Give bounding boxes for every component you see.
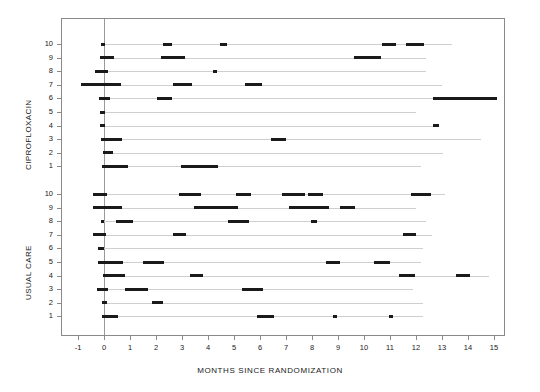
- x-axis-tick: [390, 336, 391, 340]
- episode-bar: [194, 206, 238, 209]
- x-axis-label: 2: [146, 343, 166, 352]
- episode-bar: [173, 233, 185, 236]
- followup-line: [104, 85, 442, 86]
- episode-bar: [411, 193, 431, 196]
- episode-bar: [374, 261, 390, 264]
- x-axis-tick: [416, 336, 417, 340]
- y-axis-tick: [57, 139, 61, 140]
- episode-bar: [93, 193, 107, 196]
- x-axis-tick: [182, 336, 183, 340]
- episode-bar: [190, 274, 203, 277]
- episode-bar: [245, 83, 262, 86]
- y-axis-tick: [57, 316, 61, 317]
- y-axis-tick: [57, 208, 61, 209]
- x-axis-label: 1: [120, 343, 140, 352]
- episode-bar: [333, 315, 337, 318]
- x-axis-tick: [130, 336, 131, 340]
- event-chart: CIPROFLOXACIN USUAL CARE MONTHS SINCE RA…: [0, 0, 540, 392]
- y-axis-label: 7: [31, 81, 53, 89]
- episode-bar: [433, 97, 497, 100]
- x-axis-title: MONTHS SINCE RANDOMIZATION: [0, 366, 540, 375]
- y-axis-label: 4: [31, 272, 53, 280]
- episode-bar: [101, 43, 105, 46]
- episode-bar: [99, 97, 111, 100]
- episode-bar: [101, 220, 104, 223]
- y-axis-label: 2: [31, 299, 53, 307]
- followup-line: [104, 139, 481, 140]
- y-axis-label: 3: [31, 135, 53, 143]
- episode-bar: [102, 165, 129, 168]
- followup-line: [104, 71, 426, 72]
- y-axis-tick: [57, 166, 61, 167]
- x-axis-label: 6: [250, 343, 270, 352]
- y-axis-tick: [57, 194, 61, 195]
- followup-line: [104, 166, 421, 167]
- episode-bar: [173, 83, 192, 86]
- episode-bar: [93, 206, 121, 209]
- y-axis-tick: [57, 58, 61, 59]
- followup-line: [104, 276, 489, 277]
- episode-bar: [95, 70, 108, 73]
- y-axis-label: 10: [31, 190, 53, 198]
- episode-bar: [103, 274, 125, 277]
- followup-line: [104, 153, 443, 154]
- y-axis-label: 8: [31, 67, 53, 75]
- episode-bar: [163, 43, 172, 46]
- episode-bar: [382, 43, 396, 46]
- episode-bar: [97, 288, 109, 291]
- episode-bar: [308, 193, 322, 196]
- y-axis-tick: [57, 71, 61, 72]
- episode-bar: [271, 138, 286, 141]
- episode-bar: [257, 315, 274, 318]
- episode-bar: [311, 220, 317, 223]
- y-axis-label: 3: [31, 285, 53, 293]
- x-axis-label: 11: [380, 343, 400, 352]
- followup-line: [104, 194, 445, 195]
- y-axis-label: 5: [31, 258, 53, 266]
- x-axis-tick: [156, 336, 157, 340]
- episode-bar: [220, 43, 228, 46]
- episode-bar: [389, 315, 393, 318]
- episode-bar: [100, 56, 114, 59]
- episode-bar: [161, 56, 184, 59]
- y-axis-label: 4: [31, 122, 53, 130]
- episode-bar: [102, 315, 119, 318]
- x-axis-label: 8: [302, 343, 322, 352]
- followup-line: [104, 248, 423, 249]
- y-axis-tick: [57, 126, 61, 127]
- episode-bar: [403, 233, 416, 236]
- y-axis-label: 1: [31, 312, 53, 320]
- y-axis-tick: [57, 112, 61, 113]
- episode-bar: [433, 124, 440, 127]
- x-axis-tick: [104, 336, 105, 340]
- y-axis-tick: [57, 98, 61, 99]
- episode-bar: [116, 220, 133, 223]
- episode-bar: [100, 111, 105, 114]
- followup-line: [104, 126, 439, 127]
- episode-bar: [406, 43, 424, 46]
- y-axis-tick: [57, 303, 61, 304]
- x-axis-tick: [260, 336, 261, 340]
- episode-bar: [326, 261, 340, 264]
- episode-bar: [236, 193, 251, 196]
- episode-bar: [98, 261, 123, 264]
- followup-line: [104, 221, 426, 222]
- episode-bar: [289, 206, 329, 209]
- x-axis-tick: [338, 336, 339, 340]
- y-axis-label: 9: [31, 204, 53, 212]
- y-axis-label: 5: [31, 108, 53, 116]
- x-axis-tick: [286, 336, 287, 340]
- episode-bar: [228, 220, 249, 223]
- episode-bar: [456, 274, 470, 277]
- y-axis-tick: [57, 248, 61, 249]
- followup-line: [104, 112, 416, 113]
- episode-bar: [340, 206, 355, 209]
- episode-bar: [103, 151, 114, 154]
- y-axis-tick: [57, 276, 61, 277]
- y-axis-label: 10: [31, 40, 53, 48]
- x-axis-label: 9: [328, 343, 348, 352]
- episode-bar: [93, 233, 106, 236]
- x-axis-label: 3: [172, 343, 192, 352]
- episode-bar: [143, 261, 164, 264]
- followup-line: [104, 44, 452, 45]
